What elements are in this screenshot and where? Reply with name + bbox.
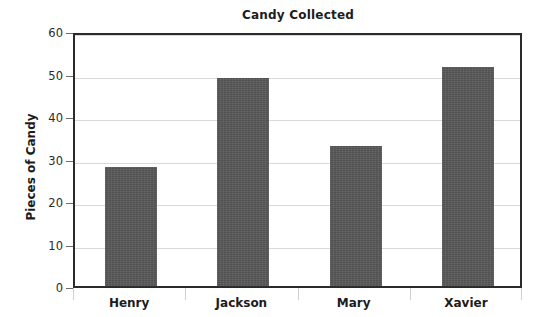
y-tick-label: 60 (23, 26, 63, 40)
chart-title: Candy Collected (73, 8, 523, 22)
x-tick-label-jackson: Jackson (185, 296, 297, 310)
y-tick-label: 0 (23, 281, 63, 295)
x-axis: HenryJacksonMaryXavier (73, 288, 522, 317)
gridline (75, 35, 520, 36)
y-tick-mark (66, 118, 73, 119)
chart-figure: Candy Collected Pieces of Candy 01020304… (0, 0, 535, 317)
plot-area (73, 33, 522, 288)
y-tick-label: 40 (23, 111, 63, 125)
y-tick-mark (66, 33, 73, 34)
bar-mary (330, 146, 382, 286)
y-tick-label: 30 (23, 154, 63, 168)
bar-xavier (442, 67, 494, 286)
y-tick-mark (66, 288, 73, 289)
y-tick-mark (66, 203, 73, 204)
y-tick-label: 10 (23, 239, 63, 253)
y-tick-label: 50 (23, 69, 63, 83)
x-tick-label-mary: Mary (298, 296, 410, 310)
y-tick-label: 20 (23, 196, 63, 210)
y-tick-mark (66, 76, 73, 77)
y-tick-mark (66, 161, 73, 162)
bar-henry (105, 167, 157, 286)
x-tick-label-henry: Henry (73, 296, 185, 310)
y-tick-mark (66, 246, 73, 247)
y-axis-tick-labels: 0102030405060 (19, 33, 63, 288)
bar-jackson (217, 78, 269, 286)
x-tick-label-xavier: Xavier (410, 296, 522, 310)
